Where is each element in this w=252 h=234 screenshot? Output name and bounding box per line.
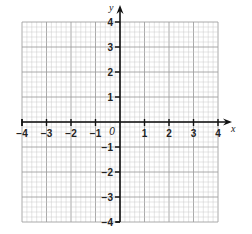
axes xyxy=(22,5,232,222)
x-tick-label: −3 xyxy=(41,128,53,139)
x-tick-label: 1 xyxy=(142,128,148,139)
y-axis-label: y xyxy=(108,2,114,13)
x-axis-label: x xyxy=(230,123,236,134)
origin-label: 0 xyxy=(109,126,115,137)
x-tick-label: −1 xyxy=(90,128,102,139)
y-tick-label: −4 xyxy=(102,217,114,228)
y-tick-label: −2 xyxy=(102,167,114,178)
x-tick-label: 2 xyxy=(166,128,172,139)
x-tick-label: −2 xyxy=(65,128,77,139)
y-tick-label: −1 xyxy=(102,142,114,153)
x-tick-label: 4 xyxy=(215,128,221,139)
x-tick-label: −4 xyxy=(16,128,28,139)
y-tick-label: 2 xyxy=(107,67,113,78)
y-tick-label: 3 xyxy=(107,42,113,53)
y-tick-label: 1 xyxy=(107,92,113,103)
y-tick-label: 4 xyxy=(107,17,113,28)
coordinate-plane: −4−3−2−11234−4−3−2−11234 x y 0 xyxy=(0,0,252,234)
y-tick-label: −3 xyxy=(102,192,114,203)
x-tick-label: 3 xyxy=(191,128,197,139)
